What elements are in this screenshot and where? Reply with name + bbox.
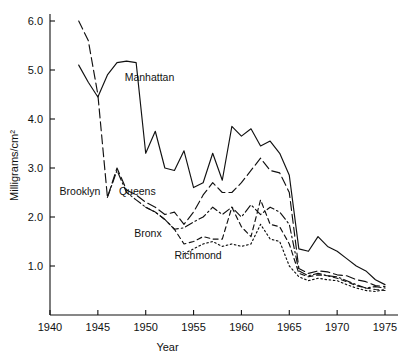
series-label-brooklyn: Brooklyn: [60, 185, 101, 197]
y-tick-label: 2.0: [28, 211, 43, 223]
x-tick-label: 1970: [325, 321, 349, 333]
series-richmond: Richmond: [174, 224, 385, 291]
series-label-bronx: Bronx: [134, 227, 162, 239]
x-axis-title: Year: [156, 341, 179, 353]
axes: 1.02.03.04.05.06.01940194519501955196019…: [8, 14, 398, 353]
y-tick-label: 4.0: [28, 113, 43, 125]
x-tick-label: 1950: [133, 321, 157, 333]
series-manhattan: Manhattan: [79, 61, 385, 284]
y-tick-label: 3.0: [28, 162, 43, 174]
y-tick-label: 5.0: [28, 64, 43, 76]
series-label-manhattan: Manhattan: [125, 71, 175, 83]
x-tick-label: 1945: [86, 321, 110, 333]
x-tick-label: 1940: [38, 321, 62, 333]
series-line-manhattan: [79, 61, 385, 284]
y-tick-label: 6.0: [28, 15, 43, 27]
x-tick-label: 1960: [229, 321, 253, 333]
x-tick-label: 1975: [373, 321, 397, 333]
series-label-queens: Queens: [119, 185, 156, 197]
series-label-richmond: Richmond: [174, 249, 221, 261]
pollution-line-chart: 1.02.03.04.05.06.01940194519501955196019…: [0, 0, 406, 353]
chart-figure: 1.02.03.04.05.06.01940194519501955196019…: [0, 0, 406, 353]
x-tick-label: 1965: [277, 321, 301, 333]
y-tick-label: 1.0: [28, 260, 43, 272]
series-line-brooklyn: [79, 21, 385, 287]
y-axis-title: Milligrams/cm²: [8, 130, 20, 201]
x-tick-label: 1955: [181, 321, 205, 333]
